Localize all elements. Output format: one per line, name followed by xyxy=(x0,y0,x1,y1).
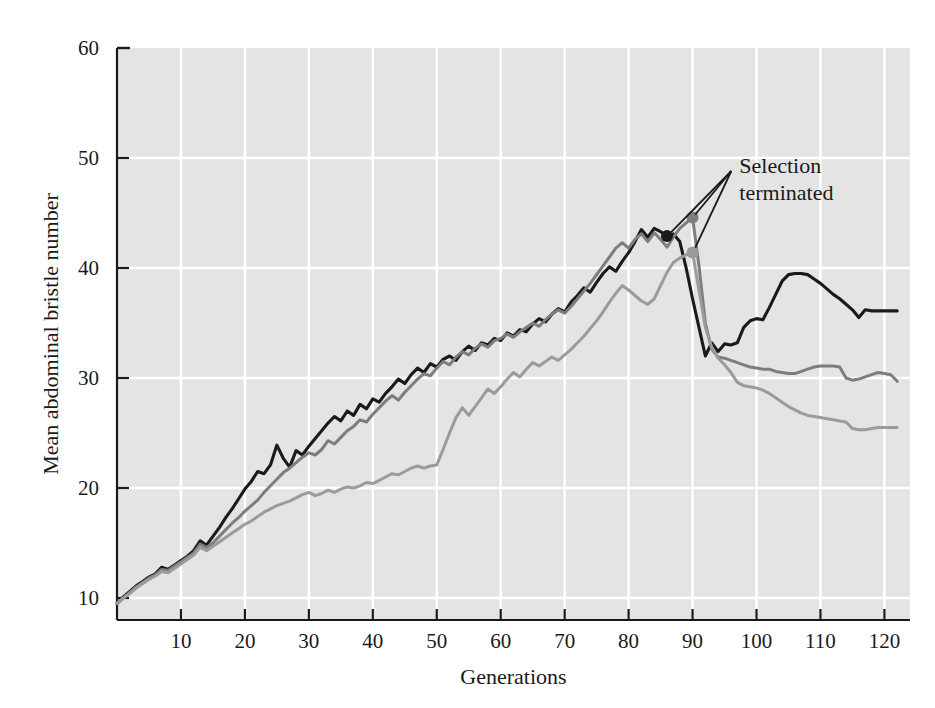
annotation-marker xyxy=(687,247,699,259)
x-tick-label: 90 xyxy=(682,629,703,653)
y-tick-label: 20 xyxy=(78,476,99,500)
annotation-label-line-2: terminated xyxy=(739,180,833,205)
x-tick-label: 70 xyxy=(554,629,575,653)
x-tick-label: 120 xyxy=(869,629,901,653)
y-tick-label: 50 xyxy=(78,146,99,170)
annotation-label-line-1: Selection xyxy=(739,153,821,178)
x-tick-label: 10 xyxy=(170,629,191,653)
y-axis-title: Mean abdominal bristle number xyxy=(38,193,63,475)
y-tick-label: 30 xyxy=(78,366,99,390)
x-tick-label: 40 xyxy=(362,629,383,653)
bristle-number-line-chart: 102030405060708090100110120 102030405060… xyxy=(0,0,935,708)
y-tick-label: 60 xyxy=(78,36,99,60)
x-tick-label: 50 xyxy=(426,629,447,653)
x-tick-label: 110 xyxy=(805,629,836,653)
x-tick-label: 80 xyxy=(618,629,639,653)
x-tick-label: 20 xyxy=(234,629,255,653)
x-tick-label: 30 xyxy=(298,629,319,653)
x-tick-label: 100 xyxy=(741,629,773,653)
x-tick-label: 60 xyxy=(490,629,511,653)
figure-container: 102030405060708090100110120 102030405060… xyxy=(0,0,935,708)
y-tick-label: 10 xyxy=(78,586,99,610)
x-axis-title: Generations xyxy=(460,664,566,689)
y-tick-label: 40 xyxy=(78,256,99,280)
